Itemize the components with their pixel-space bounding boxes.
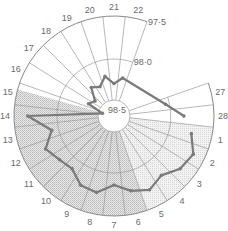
- day-label-1: 1: [218, 135, 223, 145]
- day-label-10: 10: [41, 196, 51, 206]
- day-label-11: 11: [24, 179, 33, 189]
- day-label-20: 20: [85, 5, 95, 15]
- day-label-22: 22: [133, 5, 143, 15]
- day-label-21: 21: [109, 2, 119, 12]
- day-label-9: 9: [64, 209, 69, 219]
- temp-label-98.5: 98·5: [108, 105, 126, 115]
- day-label-3: 3: [197, 179, 202, 189]
- day-label-12: 12: [11, 158, 21, 168]
- day-label-16: 16: [11, 64, 21, 74]
- day-label-2: 2: [210, 158, 215, 168]
- day-label-4: 4: [179, 196, 184, 206]
- day-label-19: 19: [62, 13, 72, 23]
- day-label-28: 28: [218, 111, 228, 121]
- day-label-6: 6: [136, 217, 141, 227]
- day-label-27: 27: [215, 87, 225, 97]
- day-label-8: 8: [87, 217, 92, 227]
- polar-temperature-chart: 123456789101112131415161718192021222728 …: [0, 0, 228, 231]
- temp-label-98: 98·0: [134, 57, 152, 67]
- day-label-17: 17: [24, 43, 34, 53]
- day-label-18: 18: [41, 26, 51, 36]
- day-label-5: 5: [159, 209, 164, 219]
- day-label-13: 13: [3, 135, 13, 145]
- day-label-14: 14: [0, 111, 10, 121]
- day-label-7: 7: [111, 220, 116, 230]
- chart-canvas: 123456789101112131415161718192021222728 …: [0, 0, 228, 231]
- day-label-15: 15: [3, 87, 13, 97]
- temp-label-97.5: 97·5: [148, 17, 166, 27]
